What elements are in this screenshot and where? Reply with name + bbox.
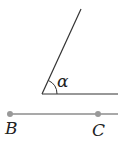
segment-bc: B C	[4, 111, 118, 140]
point-c-label: C	[92, 120, 105, 140]
point-c	[95, 111, 101, 117]
angle-label: α	[57, 71, 69, 91]
point-b	[7, 111, 13, 117]
geometry-diagram: α B C	[0, 0, 126, 144]
point-b-label: B	[4, 118, 18, 138]
angle-alpha: α	[42, 9, 118, 94]
angle-arc	[48, 80, 57, 94]
